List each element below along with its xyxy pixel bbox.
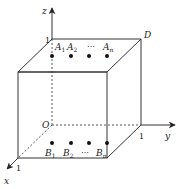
- x-axis-label: x: [4, 176, 9, 186]
- point-bn: [105, 141, 109, 145]
- point-b2: [69, 141, 73, 145]
- label-an: An: [102, 42, 114, 53]
- point-a1: [50, 54, 54, 58]
- point-an: [105, 54, 109, 58]
- z-axis-label: z: [41, 6, 47, 16]
- point-b3: [87, 141, 91, 145]
- point-a3: [87, 54, 91, 58]
- point-a2: [69, 54, 73, 58]
- z-tick-label: 1: [45, 36, 50, 45]
- y-tick-label: 1: [139, 132, 144, 141]
- vertex-d-label: D: [143, 30, 151, 40]
- point-b1: [50, 141, 54, 145]
- right-bottom-edge: [107, 125, 141, 158]
- origin-label: O: [42, 120, 50, 130]
- x-tick-label: 1: [16, 164, 21, 173]
- label-b-ellipsis: ⋯: [81, 148, 89, 157]
- label-a1: A1: [54, 42, 65, 53]
- label-a2: A2: [66, 42, 78, 53]
- label-b2: B2: [62, 148, 74, 159]
- cube-diagram: z y x 1 1 1 O D A1 A2 ⋯ An B1 B2 ⋯ Bn: [0, 0, 181, 189]
- bottom-points: [50, 141, 109, 145]
- label-b1: B1: [44, 148, 55, 159]
- y-axis-label: y: [164, 131, 171, 141]
- label-a-ellipsis: ⋯: [87, 42, 95, 51]
- label-bn: Bn: [95, 148, 107, 159]
- top-points: [50, 54, 109, 58]
- top-face: [18, 39, 141, 72]
